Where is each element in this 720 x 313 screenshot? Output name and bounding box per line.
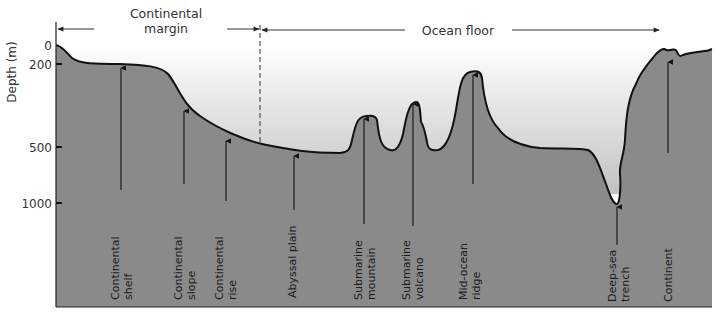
tick-label-1000: 1000 [21,197,52,211]
continental-margin-label-1: Continental [130,6,202,21]
continental-margin-bracket: Continental margin [58,6,259,36]
ocean-floor-diagram: Depth (m) 0 200 500 1000 Continental mar… [0,0,720,313]
ocean-floor-label: Ocean floor [422,23,495,38]
ocean-floor-bracket: Ocean floor [262,23,659,38]
tick-label-0: 0 [44,39,52,53]
tick-label-500: 500 [29,141,52,155]
continental-margin-label-2: margin [144,21,188,36]
label-continent: Continent [662,248,675,302]
label-submarine-mountain: Submarinemountain [352,240,378,300]
label-abyssal-plain: Abyssal plain [286,225,299,298]
tick-label-200: 200 [29,58,52,72]
depth-axis-label: Depth (m) [5,41,19,102]
